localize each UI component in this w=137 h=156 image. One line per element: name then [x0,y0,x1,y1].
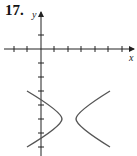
x-axis-label: x [128,52,134,63]
hyperbola-graph: y x [0,0,137,156]
y-axis-label: y [31,9,37,20]
hyperbola-left-branch [27,91,62,147]
hyperbola-right-branch [76,91,110,147]
